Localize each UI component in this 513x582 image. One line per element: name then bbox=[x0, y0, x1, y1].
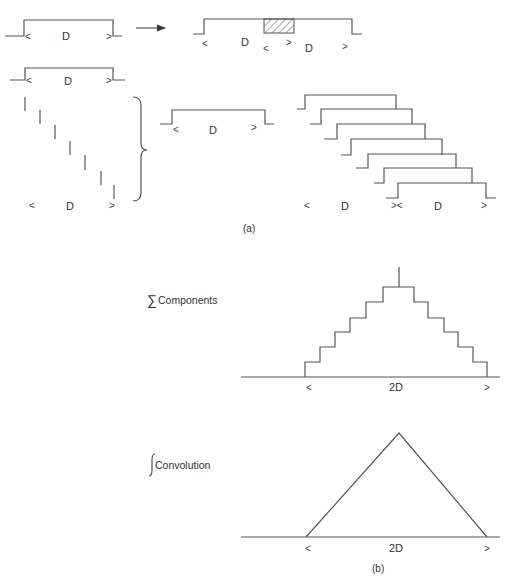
overlapped-pulses: < D < > D > bbox=[193, 19, 362, 54]
right-marker-2: > bbox=[342, 41, 348, 52]
sigma-icon: ∑ bbox=[147, 292, 157, 308]
caption-a: (a) bbox=[243, 223, 255, 234]
caption-b: (b) bbox=[372, 563, 384, 574]
single-pulse: < D > bbox=[5, 20, 122, 42]
curly-brace bbox=[133, 97, 147, 201]
pulse-label-1: D bbox=[341, 200, 349, 212]
right-marker: > bbox=[251, 122, 257, 133]
impulse-train: < D > bbox=[25, 97, 115, 212]
right-marker: > bbox=[106, 75, 112, 86]
right-marker: > bbox=[484, 382, 490, 393]
triangle-plot: < 2D > bbox=[241, 433, 500, 554]
left-marker-2: < bbox=[263, 43, 269, 54]
width-label: 2D bbox=[389, 542, 403, 554]
left-marker: < bbox=[173, 124, 179, 135]
left-marker: < bbox=[25, 31, 31, 42]
left-marker: < bbox=[29, 200, 35, 211]
integral-label: Convolution bbox=[149, 454, 211, 476]
left-marker: < bbox=[306, 382, 312, 393]
staircase-plot: < 2D > bbox=[241, 267, 500, 393]
right-marker: > bbox=[106, 31, 112, 42]
width-label: 2D bbox=[389, 381, 403, 393]
pulse-label-1: D bbox=[241, 36, 249, 48]
pulse-label: D bbox=[209, 124, 217, 136]
convolution-diagram: < D > < D < > D > < D > bbox=[0, 0, 513, 582]
result-pulse: < D > bbox=[160, 110, 274, 136]
pulse-label-2: D bbox=[434, 200, 442, 212]
convolution-label: Convolution bbox=[155, 459, 211, 471]
left-marker: < bbox=[202, 38, 208, 49]
left-marker: < bbox=[26, 75, 32, 86]
pulse-label: D bbox=[64, 75, 72, 87]
right-marker-1: > bbox=[286, 37, 292, 48]
panel-b: ∑ Components < 2D > Convolution < 2D > (… bbox=[147, 267, 500, 574]
span-label: D bbox=[66, 200, 74, 212]
sum-label: ∑ Components bbox=[147, 292, 218, 308]
overlap-hatch bbox=[264, 19, 294, 33]
left-marker: < bbox=[304, 200, 310, 211]
right-marker: > bbox=[484, 543, 490, 554]
components-label: Components bbox=[158, 294, 218, 306]
left-marker: < bbox=[305, 543, 311, 554]
joint-marker: >< bbox=[391, 200, 403, 211]
stacked-pulses: < D >< D > bbox=[297, 95, 496, 212]
panel-a: < D > < D < > D > < D > bbox=[5, 19, 496, 234]
pulse-label-2: D bbox=[305, 42, 313, 54]
right-marker: > bbox=[481, 200, 487, 211]
right-marker: > bbox=[109, 200, 115, 211]
reference-pulse: < D > bbox=[10, 68, 125, 87]
pulse-label: D bbox=[62, 30, 70, 42]
